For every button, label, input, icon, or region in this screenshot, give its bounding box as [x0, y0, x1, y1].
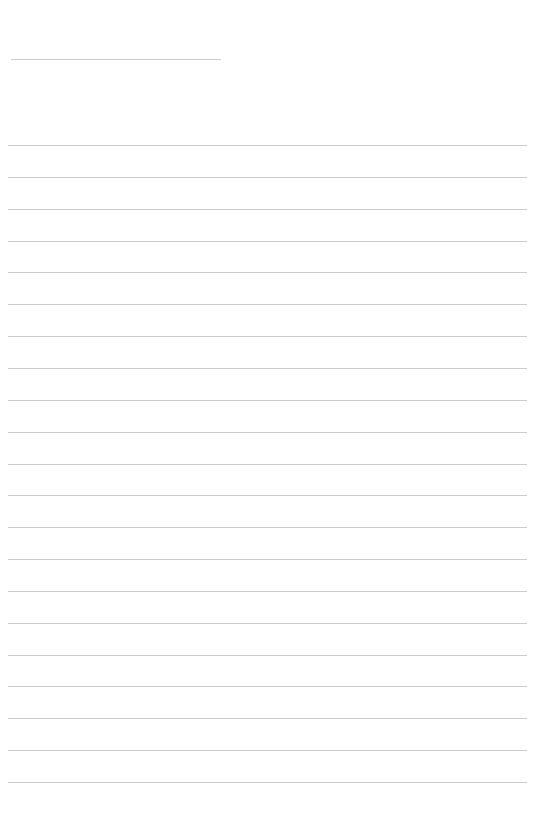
ruled-line	[8, 782, 527, 783]
ruled-line	[8, 686, 527, 687]
ruled-line	[8, 241, 527, 242]
ruled-line	[8, 623, 527, 624]
ruled-line	[8, 559, 527, 560]
lined-page	[0, 0, 547, 838]
ruled-line	[8, 400, 527, 401]
ruled-line	[8, 432, 527, 433]
ruled-line	[8, 336, 527, 337]
ruled-line	[8, 177, 527, 178]
ruled-line	[8, 209, 527, 210]
header-rule-line	[11, 59, 221, 60]
ruled-line	[8, 368, 527, 369]
ruled-line	[8, 591, 527, 592]
ruled-line	[8, 464, 527, 465]
ruled-line	[8, 145, 527, 146]
ruled-line	[8, 655, 527, 656]
ruled-line	[8, 304, 527, 305]
ruled-line	[8, 495, 527, 496]
ruled-line	[8, 527, 527, 528]
ruled-line	[8, 718, 527, 719]
ruled-line	[8, 272, 527, 273]
ruled-line	[8, 750, 527, 751]
